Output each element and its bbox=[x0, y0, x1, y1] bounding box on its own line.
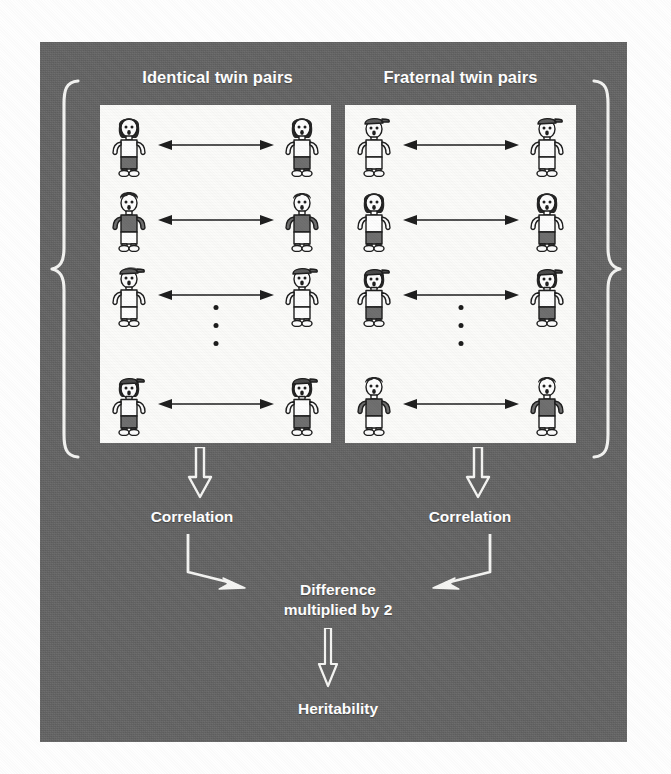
figure-boy-dark-hair-dark-shirt bbox=[351, 370, 397, 440]
twin-pair-row bbox=[100, 111, 331, 179]
arrow-box-to-correlation-right bbox=[463, 447, 493, 503]
column-heading-identical: Identical twin pairs bbox=[105, 68, 330, 87]
vertical-ellipsis bbox=[213, 305, 218, 346]
arrow-box-to-correlation-left bbox=[185, 447, 215, 503]
pair-connector-arrow bbox=[402, 286, 520, 304]
label-correlation-right: Correlation bbox=[400, 508, 540, 526]
fraternal-twins-box bbox=[345, 105, 576, 443]
figure-boy-cap-white-shirt bbox=[524, 111, 570, 181]
label-heritability: Heritability bbox=[248, 700, 428, 718]
twin-pair-row bbox=[345, 111, 576, 179]
identical-twins-box bbox=[100, 105, 331, 443]
ellipsis-dot bbox=[458, 341, 463, 346]
figure-girl-cap-dark-pants bbox=[524, 261, 570, 331]
ellipsis-dot bbox=[458, 305, 463, 310]
pair-connector-arrow bbox=[402, 211, 520, 229]
figure-boy-dark-hair-dark-shirt bbox=[106, 186, 152, 256]
ellipsis-dot bbox=[458, 323, 463, 328]
right-brace bbox=[590, 78, 624, 464]
vertical-ellipsis bbox=[458, 305, 463, 346]
pair-connector-arrow bbox=[157, 136, 275, 154]
twin-pair-row bbox=[345, 186, 576, 254]
figure-girl-dark-hair-white-shirt bbox=[351, 186, 397, 256]
label-correlation-left: Correlation bbox=[122, 508, 262, 526]
twin-pair-row bbox=[100, 186, 331, 254]
left-brace bbox=[48, 78, 82, 464]
twin-pair-row bbox=[100, 370, 331, 438]
pair-connector-arrow bbox=[402, 395, 520, 413]
pair-connector-arrow bbox=[157, 286, 275, 304]
figure-girl-cap-white-shirt bbox=[106, 370, 152, 440]
ellipsis-dot bbox=[213, 305, 218, 310]
column-heading-fraternal: Fraternal twin pairs bbox=[348, 68, 573, 87]
ellipsis-dot bbox=[213, 323, 218, 328]
figure-boy-cap-white-shirt bbox=[351, 111, 397, 181]
label-difference-line1: Difference bbox=[248, 580, 428, 600]
figure-girl-cap-white-shirt bbox=[279, 370, 325, 440]
figure-boy-cap-white-shirt bbox=[279, 261, 325, 331]
figure-girl-dark-hair-white-shirt bbox=[524, 186, 570, 256]
figure-girl-dark-hair-white-shirt bbox=[106, 111, 152, 181]
arrow-difference-to-heritability bbox=[316, 628, 340, 692]
pair-connector-arrow bbox=[157, 395, 275, 413]
twin-pair-row bbox=[345, 370, 576, 438]
ellipsis-dot bbox=[213, 341, 218, 346]
figure-boy-cap-white-shirt bbox=[106, 261, 152, 331]
pair-connector-arrow bbox=[157, 211, 275, 229]
label-difference-line2: multiplied by 2 bbox=[248, 600, 428, 620]
label-difference: Difference multiplied by 2 bbox=[248, 580, 428, 620]
figure-boy-dark-hair-dark-shirt bbox=[279, 186, 325, 256]
figure-girl-dark-hair-white-shirt bbox=[279, 111, 325, 181]
figure-girl-cap-dark-pants bbox=[351, 261, 397, 331]
diagram-canvas: Identical twin pairs Fraternal twin pair… bbox=[0, 0, 671, 774]
pair-connector-arrow bbox=[402, 136, 520, 154]
figure-boy-dark-hair-dark-shirt bbox=[524, 370, 570, 440]
